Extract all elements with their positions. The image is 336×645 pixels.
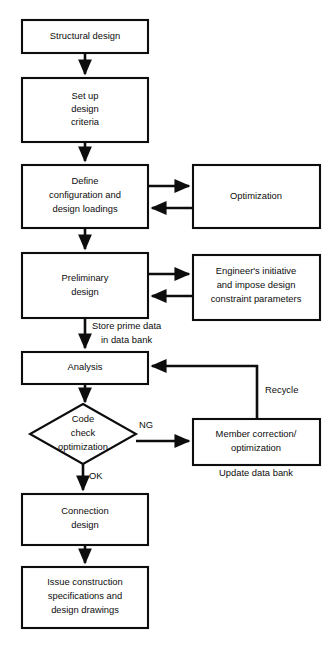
node-code-check-optimization-label-3: optimization [58,441,108,452]
node-define-configuration-label-1: Define [71,175,98,186]
edge-label-ok: OK [89,470,103,481]
node-code-check-optimization-label-2: check [71,427,96,438]
node-structural-design[interactable]: Structural design [22,20,148,53]
edge-label-recycle: Recycle [265,384,298,395]
flowchart-svg: Structural design Set up design criteria… [0,0,336,645]
node-engineers-initiative-label-3: constraint parameters [211,293,302,304]
node-optimization[interactable]: Optimization [193,165,320,228]
node-set-up-design-criteria-label-2: design [71,103,99,114]
node-preliminary-design[interactable]: Preliminary design [22,253,148,318]
node-structural-design-label: Structural design [50,30,120,41]
edge-label-ng: NG [139,419,153,430]
node-preliminary-design-label-2: design [71,286,99,297]
node-issue-construction-label-2: specifications and [48,590,123,601]
node-member-correction[interactable]: Member correction/ optimization [193,419,320,465]
node-engineers-initiative-label-2: and impose design [217,279,296,290]
node-define-configuration-label-2: configuration and [49,189,121,200]
node-issue-construction-label-3: design drawings [51,604,119,615]
edge-label-store-prime-data-1: Store prime data [92,320,162,331]
node-define-configuration[interactable]: Define configuration and design loadings [22,165,148,228]
node-analysis[interactable]: Analysis [22,352,148,384]
node-set-up-design-criteria[interactable]: Set up design criteria [22,78,148,142]
node-engineers-initiative[interactable]: Engineer's initiative and impose design … [193,255,320,320]
node-engineers-initiative-label-1: Engineer's initiative [216,265,296,276]
node-preliminary-design-label-1: Preliminary [62,272,109,283]
node-member-correction-label-2: optimization [231,442,281,453]
node-code-check-optimization[interactable]: Code check optimization [30,404,136,464]
node-issue-construction[interactable]: Issue construction specifications and de… [22,567,148,628]
node-connection-design-label-1: Connection [61,505,108,516]
edge-label-store-prime-data-2: in data bank [101,334,152,345]
node-code-check-optimization-label-1: Code [72,413,94,424]
node-issue-construction-label-1: Issue construction [47,576,123,587]
node-optimization-label: Optimization [230,190,282,201]
edge-recycle-to-analysis [152,366,257,419]
caption-update-data-bank: Update data bank [219,467,293,478]
node-set-up-design-criteria-label-1: Set up [71,90,98,101]
node-member-correction-label-1: Member correction/ [216,428,297,439]
node-define-configuration-label-3: design loadings [52,203,117,214]
node-connection-design[interactable]: Connection design [22,494,148,545]
node-analysis-label: Analysis [68,361,103,372]
node-set-up-design-criteria-label-3: criteria [71,116,100,127]
flowchart-canvas: Structural design Set up design criteria… [0,0,336,645]
node-connection-design-label-2: design [71,519,99,530]
